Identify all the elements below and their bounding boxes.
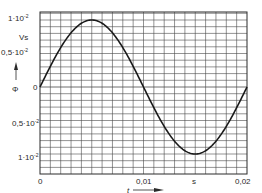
x-axis-arrow-icon bbox=[133, 188, 164, 192]
y-unit-label: Vs bbox=[19, 33, 28, 42]
grid bbox=[40, 12, 247, 174]
chart: 1·10-2 Vs 0,5·10-2 Φ 0 0,5·10-2 1·10-2 0… bbox=[0, 0, 262, 193]
y-tick-label-neg-top: 1·10-2 bbox=[18, 152, 39, 162]
x-tick-label-end: 0,02 bbox=[235, 177, 251, 186]
x-axis-symbol: t bbox=[127, 186, 130, 193]
y-tick-label-zero: 0 bbox=[33, 83, 38, 92]
y-tick-label-half: 0,5·10-2 bbox=[1, 47, 28, 57]
x-tick-label-zero: 0 bbox=[38, 177, 43, 186]
y-tick-label-top: 1·10-2 bbox=[8, 13, 29, 23]
y-axis-symbol: Φ bbox=[12, 85, 18, 94]
y-tick-label-neg-half: 0,5·10-2 bbox=[12, 118, 39, 128]
x-tick-label-mid: 0,01 bbox=[136, 177, 152, 186]
x-unit-label: s bbox=[192, 177, 196, 186]
y-axis-arrow-icon bbox=[14, 62, 18, 80]
